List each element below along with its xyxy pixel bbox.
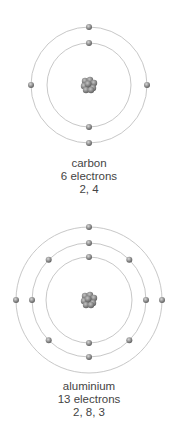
electron-icon — [86, 140, 92, 146]
electron-count: 13 electrons — [0, 393, 178, 406]
electron-icon — [13, 297, 19, 303]
nucleus-icon — [81, 77, 97, 93]
electron-icon — [86, 124, 92, 130]
electron-icon — [143, 297, 149, 303]
electron-icon — [28, 82, 34, 88]
electron-configuration: 2, 4 — [0, 183, 178, 196]
electron-configuration: 2, 8, 3 — [0, 406, 178, 419]
electron-icon — [86, 254, 92, 260]
electron-icon — [86, 354, 92, 360]
electron-icon — [29, 297, 35, 303]
atom-diagram — [0, 0, 185, 423]
electron-icon — [126, 257, 132, 263]
electron-icon — [86, 240, 92, 246]
carbon-label: carbon 6 electrons 2, 4 — [0, 157, 178, 196]
electron-icon — [86, 40, 92, 46]
nucleus-icon — [81, 292, 97, 308]
aluminium-atom — [13, 224, 165, 373]
electron-icon — [126, 337, 132, 343]
electron-icon — [86, 224, 92, 230]
electron-icon — [86, 340, 92, 346]
aluminium-label: aluminium 13 electrons 2, 8, 3 — [0, 380, 178, 419]
carbon-atom — [28, 24, 150, 146]
electron-icon — [46, 337, 52, 343]
electron-icon — [86, 24, 92, 30]
electron-count: 6 electrons — [0, 170, 178, 183]
atom-name: carbon — [0, 157, 178, 170]
electron-icon — [144, 82, 150, 88]
electron-icon — [46, 257, 52, 263]
electron-icon — [159, 297, 165, 303]
atom-name: aluminium — [0, 380, 178, 393]
